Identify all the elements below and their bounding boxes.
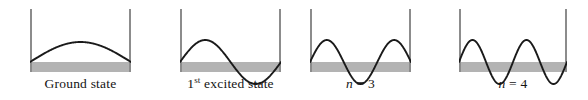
wavefunction-curve [30,42,131,62]
label-suffix: = 4 [506,76,528,91]
wavefunction-figure: Ground state1st excited staten = 3n = 4 [0,0,588,100]
well-panel-ground-state: Ground state [30,0,131,100]
panel-label-first-excited-state: 1st excited state [180,76,281,91]
label-suffix: excited state [201,76,274,91]
well-panel-first-excited-state: 1st excited state [180,0,281,100]
potential-floor-band [30,62,131,72]
label-prefix: n [499,76,506,91]
label-prefix: n [346,76,353,91]
panel-label-ground-state: Ground state [30,76,131,91]
well-panel-n-equals-3: n = 3 [310,0,411,100]
label-suffix: = 3 [353,76,375,91]
panel-label-n-equals-3: n = 3 [310,76,411,91]
label-prefix: Ground state [45,76,117,91]
potential-floor-band [310,62,411,72]
well-panel-n-equals-4: n = 4 [459,0,567,100]
panel-label-n-equals-4: n = 4 [459,76,567,91]
